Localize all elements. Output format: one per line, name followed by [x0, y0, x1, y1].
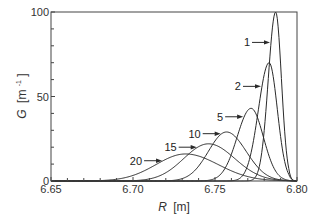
- y-axis-unit: [m: [15, 90, 29, 103]
- data-curves: [51, 12, 297, 181]
- x-tick-label: 6.80: [286, 183, 307, 195]
- chart-area: 125101520 6.656.706.756.80 050100 R [m] …: [0, 0, 324, 219]
- y-tick-label: 100: [31, 6, 49, 18]
- arrowhead-icon: [237, 115, 243, 119]
- curve-10: [51, 132, 297, 181]
- y-tick-label: 50: [37, 91, 49, 103]
- curve-labels: 125101520: [130, 36, 270, 166]
- y-axis-unit-superscript: -1: [15, 80, 22, 86]
- curve-label-20: 20: [130, 155, 142, 167]
- y-axis-var: G: [15, 109, 29, 118]
- curve-label-10: 10: [188, 128, 200, 140]
- curve-label-15: 15: [164, 141, 176, 153]
- x-tick-label: 6.75: [204, 183, 225, 195]
- y-tick-label: 0: [43, 175, 49, 187]
- arrowhead-icon: [255, 84, 261, 88]
- x-tick-label: 6.70: [122, 183, 143, 195]
- x-axis-unit: [m]: [173, 200, 190, 214]
- x-axis-var: R: [158, 200, 167, 214]
- arrowhead-icon: [264, 40, 270, 44]
- curve-label-5: 5: [217, 111, 223, 123]
- curve-label-2: 2: [235, 80, 241, 92]
- x-axis-title: R [m]: [158, 200, 190, 214]
- y-axis-unit-close: ]: [15, 73, 29, 76]
- curve-label-1: 1: [244, 36, 250, 48]
- y-axis-title: G [m -1 ]: [10, 73, 29, 118]
